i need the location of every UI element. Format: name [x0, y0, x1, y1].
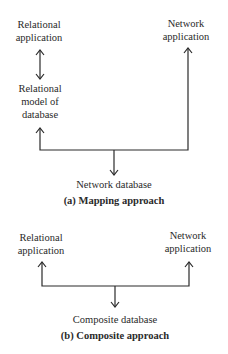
label-line: database [18, 108, 61, 121]
label-line: application [163, 30, 210, 43]
label-line: Relational [16, 18, 63, 31]
branch-connector [42, 262, 189, 286]
relational-model-node: Relational model of database [18, 82, 61, 121]
label-line: application [18, 244, 65, 257]
label-line: application [16, 31, 63, 44]
label-line: Network [165, 229, 212, 242]
caption-mapping-approach: (a) Mapping approach [64, 195, 165, 206]
connector-lines [0, 0, 228, 354]
label-line: model of [18, 95, 61, 108]
label-line: Relational [18, 82, 61, 95]
network-application-node: Network application [163, 17, 210, 43]
caption-composite-approach: (b) Composite approach [61, 330, 169, 341]
relational-application-node: Relational application [18, 231, 65, 257]
branch-connector [40, 48, 188, 150]
label-line: application [165, 242, 212, 255]
label-line: Network [163, 17, 210, 30]
network-database-node: Network database [76, 178, 152, 191]
label-line: Relational [18, 231, 65, 244]
relational-application-node: Relational application [16, 18, 63, 44]
composite-database-node: Composite database [73, 313, 157, 326]
network-application-node: Network application [165, 229, 212, 255]
